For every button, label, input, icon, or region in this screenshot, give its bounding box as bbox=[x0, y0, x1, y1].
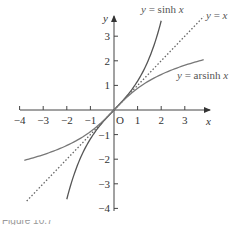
svg-text:1: 1 bbox=[105, 79, 111, 91]
svg-text:−4: −4 bbox=[98, 202, 110, 214]
svg-text:−4: −4 bbox=[14, 114, 26, 126]
svg-text:2: 2 bbox=[158, 114, 164, 126]
svg-text:3: 3 bbox=[105, 30, 111, 42]
sinh-label: y = sinh x bbox=[140, 3, 184, 15]
chart-canvas: −4−3−2−1123 321−1−2−3−4 x y O y = sinh x… bbox=[0, 0, 235, 220]
x-axis-label: x bbox=[205, 115, 211, 127]
svg-text:−1: −1 bbox=[98, 129, 110, 141]
svg-text:−1: −1 bbox=[85, 114, 97, 126]
figure-caption: Figure 10.7 bbox=[2, 220, 62, 225]
svg-text:−2: −2 bbox=[61, 114, 73, 126]
identity-label: y = x bbox=[205, 9, 228, 21]
svg-text:1: 1 bbox=[135, 114, 141, 126]
svg-text:−3: −3 bbox=[37, 114, 49, 126]
y-axis-label: y bbox=[102, 12, 108, 24]
svg-text:2: 2 bbox=[105, 55, 111, 67]
svg-text:−3: −3 bbox=[98, 178, 110, 190]
origin-label: O bbox=[116, 114, 124, 126]
svg-text:−2: −2 bbox=[98, 153, 110, 165]
arsinh-label: y = arsinh x bbox=[176, 69, 228, 81]
svg-text:3: 3 bbox=[182, 114, 188, 126]
